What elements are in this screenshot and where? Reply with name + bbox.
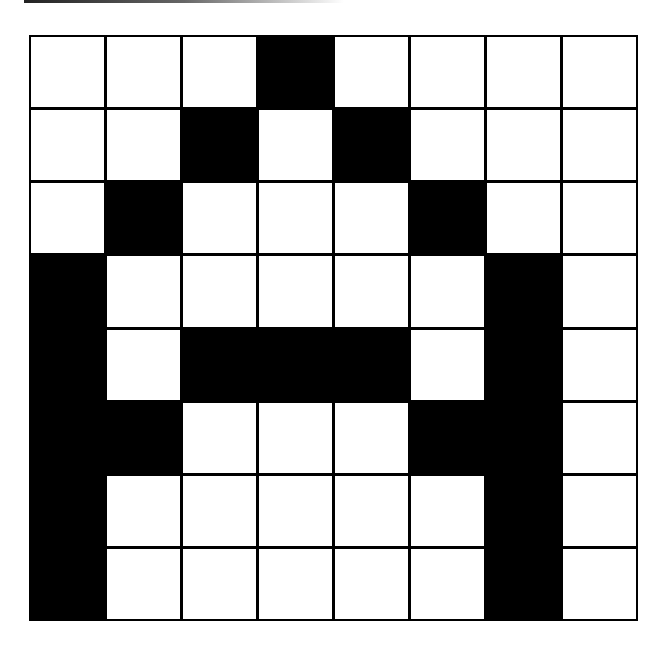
- grid-cell-r4-c4[interactable]: [335, 330, 408, 400]
- grid-cell-r4-c1[interactable]: [107, 330, 180, 400]
- grid-cell-r6-c2[interactable]: [183, 476, 256, 546]
- grid-cell-r4-c3[interactable]: [259, 330, 332, 400]
- pixel-grid: [29, 35, 638, 621]
- grid-cell-r6-c0[interactable]: [31, 476, 104, 546]
- grid-cell-r1-c1[interactable]: [107, 110, 180, 180]
- grid-cell-r6-c6[interactable]: [487, 476, 560, 546]
- grid-cell-r1-c5[interactable]: [411, 110, 484, 180]
- grid-cell-r3-c2[interactable]: [183, 256, 256, 326]
- grid-cell-r0-c5[interactable]: [411, 37, 484, 107]
- grid-cell-r0-c0[interactable]: [31, 37, 104, 107]
- grid-cell-r4-c7[interactable]: [563, 330, 636, 400]
- top-rule: [24, 0, 344, 3]
- grid-cell-r0-c2[interactable]: [183, 37, 256, 107]
- grid-cell-r4-c6[interactable]: [487, 330, 560, 400]
- grid-cell-r7-c7[interactable]: [563, 549, 636, 619]
- grid-cell-r7-c0[interactable]: [31, 549, 104, 619]
- grid-cell-r2-c0[interactable]: [31, 183, 104, 253]
- grid-cell-r0-c6[interactable]: [487, 37, 560, 107]
- grid-cell-r1-c7[interactable]: [563, 110, 636, 180]
- grid-cell-r7-c6[interactable]: [487, 549, 560, 619]
- grid-cell-r4-c2[interactable]: [183, 330, 256, 400]
- grid-cell-r3-c5[interactable]: [411, 256, 484, 326]
- grid-cell-r0-c4[interactable]: [335, 37, 408, 107]
- grid-cell-r1-c4[interactable]: [335, 110, 408, 180]
- grid-cell-r0-c3[interactable]: [259, 37, 332, 107]
- grid-cell-r5-c3[interactable]: [259, 403, 332, 473]
- grid-cell-r4-c0[interactable]: [31, 330, 104, 400]
- grid-cell-r6-c4[interactable]: [335, 476, 408, 546]
- grid-cell-r5-c1[interactable]: [107, 403, 180, 473]
- grid-cell-r2-c7[interactable]: [563, 183, 636, 253]
- grid-cell-r6-c7[interactable]: [563, 476, 636, 546]
- grid-cell-r5-c5[interactable]: [411, 403, 484, 473]
- grid-cell-r5-c2[interactable]: [183, 403, 256, 473]
- grid-cell-r0-c1[interactable]: [107, 37, 180, 107]
- grid-cell-r5-c4[interactable]: [335, 403, 408, 473]
- grid-cell-r2-c1[interactable]: [107, 183, 180, 253]
- grid-cell-r2-c3[interactable]: [259, 183, 332, 253]
- grid-cell-r7-c1[interactable]: [107, 549, 180, 619]
- grid-cell-r3-c6[interactable]: [487, 256, 560, 326]
- grid-cell-r2-c4[interactable]: [335, 183, 408, 253]
- grid-cell-r2-c5[interactable]: [411, 183, 484, 253]
- grid-cell-r3-c1[interactable]: [107, 256, 180, 326]
- grid-cell-r1-c6[interactable]: [487, 110, 560, 180]
- grid-cell-r1-c3[interactable]: [259, 110, 332, 180]
- grid-cell-r2-c6[interactable]: [487, 183, 560, 253]
- grid-cell-r7-c2[interactable]: [183, 549, 256, 619]
- grid-cell-r7-c3[interactable]: [259, 549, 332, 619]
- grid-cell-r4-c5[interactable]: [411, 330, 484, 400]
- grid-cell-r1-c0[interactable]: [31, 110, 104, 180]
- grid-cell-r3-c7[interactable]: [563, 256, 636, 326]
- grid-cell-r6-c5[interactable]: [411, 476, 484, 546]
- grid-cell-r7-c4[interactable]: [335, 549, 408, 619]
- grid-cell-r2-c2[interactable]: [183, 183, 256, 253]
- grid-cell-r6-c3[interactable]: [259, 476, 332, 546]
- grid-cell-r3-c0[interactable]: [31, 256, 104, 326]
- grid-cell-r5-c7[interactable]: [563, 403, 636, 473]
- grid-cell-r3-c3[interactable]: [259, 256, 332, 326]
- grid-cell-r0-c7[interactable]: [563, 37, 636, 107]
- grid-cell-r1-c2[interactable]: [183, 110, 256, 180]
- grid-cell-r6-c1[interactable]: [107, 476, 180, 546]
- grid-cell-r7-c5[interactable]: [411, 549, 484, 619]
- grid-cell-r3-c4[interactable]: [335, 256, 408, 326]
- grid-cell-r5-c0[interactable]: [31, 403, 104, 473]
- grid-cell-r5-c6[interactable]: [487, 403, 560, 473]
